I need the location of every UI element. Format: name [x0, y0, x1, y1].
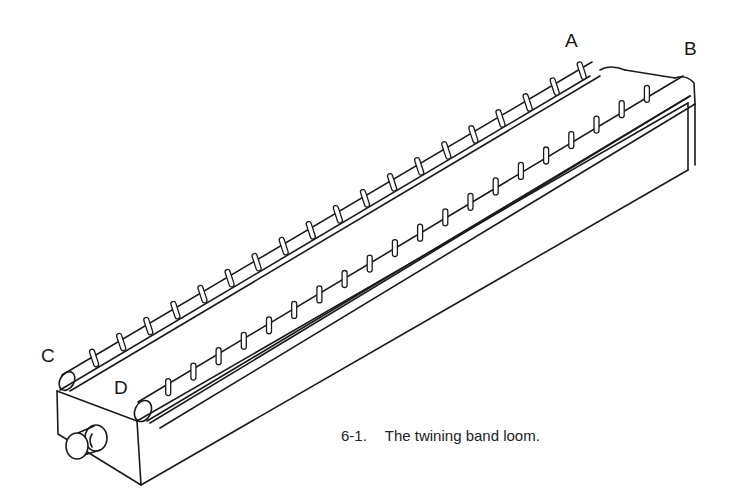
- label-b: B: [684, 39, 697, 58]
- peg: [619, 101, 624, 118]
- peg: [418, 224, 423, 241]
- figure-caption: 6-1. The twining band loom.: [341, 427, 540, 444]
- front-roller: [131, 76, 690, 424]
- peg: [367, 255, 372, 272]
- twining-band-loom-illustration: [0, 0, 730, 501]
- peg: [544, 147, 549, 164]
- peg: [569, 132, 574, 149]
- label-d: D: [114, 378, 128, 397]
- peg: [267, 317, 272, 334]
- peg: [342, 271, 347, 288]
- peg: [241, 332, 246, 349]
- figure-number: 6-1.: [341, 427, 367, 444]
- peg: [518, 162, 523, 179]
- peg: [317, 286, 322, 303]
- peg: [493, 178, 498, 195]
- peg: [468, 193, 473, 210]
- label-c: C: [41, 346, 55, 365]
- peg: [292, 301, 297, 318]
- peg: [191, 363, 196, 380]
- peg: [594, 116, 599, 133]
- peg: [392, 240, 397, 257]
- peg: [166, 379, 171, 396]
- label-a: A: [565, 31, 578, 50]
- knob: [66, 425, 107, 459]
- peg: [216, 348, 221, 365]
- figure-caption-text: The twining band loom.: [385, 427, 540, 444]
- peg: [443, 209, 448, 226]
- peg: [644, 85, 649, 102]
